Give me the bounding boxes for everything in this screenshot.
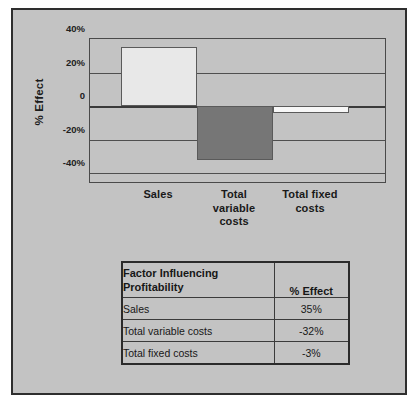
cell-effect: -32%	[274, 320, 349, 342]
gridline-neg40	[90, 173, 385, 174]
y-tick-label: -40%	[43, 157, 85, 168]
y-tick-label: 20%	[43, 56, 85, 67]
cell-factor: Total variable costs	[122, 320, 274, 342]
x-label-line: Total fixed	[264, 188, 356, 202]
plot-area	[89, 38, 386, 183]
table-row: Total fixed costs -3%	[122, 342, 349, 365]
factor-effect-table: Factor Influencing Profitability % Effec…	[121, 261, 350, 365]
header-factor-line2: Profitability	[123, 280, 274, 294]
x-axis-category-labels: Sales Total variable costs Total fixed c…	[89, 188, 386, 246]
y-tick-label: -20%	[43, 123, 85, 134]
header-factor: Factor Influencing Profitability	[122, 262, 274, 298]
bar-sales	[121, 47, 197, 106]
bar-total-fixed-costs	[273, 106, 349, 113]
y-tick-label: 40%	[43, 23, 85, 34]
y-axis-tick-labels: 40% 20% 0 -20% -40%	[43, 28, 85, 183]
x-label-line: costs	[188, 215, 280, 229]
table-row: Sales 35%	[122, 298, 349, 320]
bar-chart: % Effect 40% 20% 0 -20% -40%	[13, 10, 409, 250]
y-tick-label: 0	[43, 90, 85, 101]
cell-effect: 35%	[274, 298, 349, 320]
cell-factor: Sales	[122, 298, 274, 320]
header-factor-line1: Factor Influencing	[123, 266, 274, 280]
header-effect: % Effect	[274, 262, 349, 298]
x-label-line: costs	[264, 202, 356, 216]
x-label-total-fixed-costs: Total fixed costs	[264, 188, 356, 215]
cell-factor: Total fixed costs	[122, 342, 274, 365]
figure-root: % Effect 40% 20% 0 -20% -40%	[0, 0, 419, 407]
bar-total-variable-costs	[197, 106, 273, 160]
table-row: Total variable costs -32%	[122, 320, 349, 342]
cell-effect: -3%	[274, 342, 349, 365]
chart-panel: % Effect 40% 20% 0 -20% -40%	[11, 8, 407, 395]
table-header-row: Factor Influencing Profitability % Effec…	[122, 262, 349, 298]
